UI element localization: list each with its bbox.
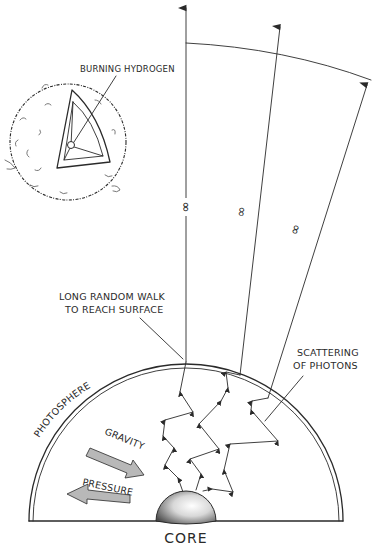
inset-burning-core bbox=[68, 142, 75, 149]
force-arrows: GRAVITY PRESSURE bbox=[67, 426, 146, 504]
break-symbol-right: ∞ bbox=[287, 222, 305, 237]
photosphere-label: PHOTOSPHERE bbox=[31, 380, 92, 439]
escape-rays: ∞ ∞ ∞ bbox=[179, 8, 368, 398]
ray-middle bbox=[240, 27, 280, 375]
break-symbol-middle: ∞ bbox=[234, 206, 250, 219]
break-symbol-vertical: ∞ bbox=[179, 201, 194, 212]
core-hemisphere bbox=[156, 491, 216, 524]
photon-random-walks bbox=[163, 362, 278, 492]
scattering-leader bbox=[265, 376, 303, 421]
scattering-label-2: OF PHOTONS bbox=[293, 360, 358, 371]
random-walk-3 bbox=[203, 398, 278, 492]
inset-star-sphere bbox=[10, 84, 126, 200]
gravity-arrow bbox=[86, 448, 144, 478]
inset-star: BURNING HYDROGEN bbox=[5, 64, 175, 200]
long-random-walk-leader bbox=[140, 318, 183, 359]
random-walk-1 bbox=[163, 362, 193, 492]
core-label: CORE bbox=[164, 530, 207, 546]
long-random-walk-label-1: LONG RANDOM WALK bbox=[59, 291, 165, 302]
outer-distance-arc bbox=[186, 43, 371, 80]
gravity-label: GRAVITY bbox=[103, 426, 146, 452]
burning-hydrogen-label: BURNING HYDROGEN bbox=[80, 64, 175, 74]
long-random-walk-label-2: TO REACH SURFACE bbox=[64, 304, 163, 315]
photon-random-walk-diagram: BURNING HYDROGEN ∞ ∞ ∞ LONG RANDOM WALK … bbox=[0, 0, 372, 547]
scattering-label-1: SCATTERING bbox=[297, 347, 359, 358]
random-walk-2 bbox=[190, 372, 240, 490]
